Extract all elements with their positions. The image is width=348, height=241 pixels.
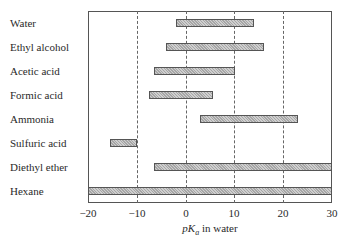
row-label: Diethyl ether bbox=[10, 161, 68, 173]
gridline bbox=[137, 11, 138, 203]
gridline bbox=[186, 11, 187, 203]
row-label: Formic acid bbox=[10, 89, 63, 101]
range-bar bbox=[88, 187, 332, 195]
pka-range-chart: WaterEthyl alcoholAcetic acidFormic acid… bbox=[0, 0, 348, 241]
range-bar bbox=[149, 91, 213, 99]
range-bar bbox=[166, 43, 264, 51]
x-tick-label: 20 bbox=[278, 207, 289, 219]
gridline bbox=[234, 11, 235, 203]
x-tick-label: −20 bbox=[79, 207, 96, 219]
row-label: Sulfuric acid bbox=[10, 137, 67, 149]
row-label: Acetic acid bbox=[10, 65, 60, 77]
row-label: Hexane bbox=[10, 185, 44, 197]
range-bar bbox=[154, 163, 332, 171]
range-bar bbox=[200, 115, 298, 123]
range-bar bbox=[110, 139, 137, 147]
row-label: Ethyl alcohol bbox=[10, 41, 69, 53]
plot-frame bbox=[88, 11, 332, 203]
x-tick-label: 30 bbox=[327, 207, 338, 219]
row-label: Water bbox=[10, 17, 36, 29]
x-axis-title: pKa in water bbox=[182, 222, 237, 237]
row-label: Ammonia bbox=[10, 113, 54, 125]
range-bar bbox=[154, 67, 235, 75]
range-bar bbox=[176, 19, 254, 27]
x-tick-label: −10 bbox=[128, 207, 145, 219]
x-axis-title-var: pK bbox=[182, 222, 195, 234]
gridline bbox=[283, 11, 284, 203]
x-tick-label: 10 bbox=[229, 207, 240, 219]
x-tick-label: 0 bbox=[183, 207, 189, 219]
x-axis-title-rest: in water bbox=[199, 222, 237, 234]
